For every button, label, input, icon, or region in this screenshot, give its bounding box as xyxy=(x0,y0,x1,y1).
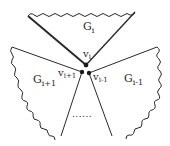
label-v-i-minus-1: vi-1 xyxy=(92,71,108,84)
vertex-v-i-minus-1 xyxy=(87,71,91,75)
vertex-v-i xyxy=(84,63,89,68)
label-g-i-minus-1: Gi-1 xyxy=(124,72,143,87)
region-g-i xyxy=(28,12,135,65)
label-v-i: vi xyxy=(82,48,92,61)
label-g-i: Gi xyxy=(83,20,95,35)
diagram-canvas: ...... Gi Gi+1 Gi-1 vi vi+1 vi-1 xyxy=(0,0,170,146)
vertex-v-i-plus-1 xyxy=(80,70,84,74)
region-g-i-plus-1 xyxy=(11,47,83,140)
ellipsis: ...... xyxy=(72,109,92,119)
label-g-i-plus-1: Gi+1 xyxy=(33,73,56,88)
region-g-i-minus-1 xyxy=(89,47,162,139)
